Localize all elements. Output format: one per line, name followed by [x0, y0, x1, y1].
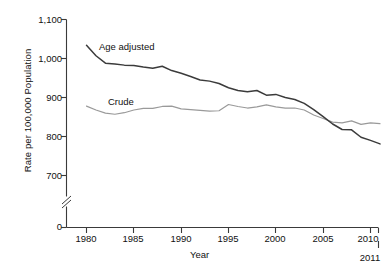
y-axis-break-icon — [62, 196, 71, 208]
series-line-crude — [87, 105, 380, 125]
axes — [61, 20, 379, 249]
line-chart-figure: Rate per 100,000 Population 1,100 1,000 … — [0, 0, 389, 268]
plot-area — [0, 0, 389, 268]
series-line-age-adjusted — [87, 45, 380, 144]
